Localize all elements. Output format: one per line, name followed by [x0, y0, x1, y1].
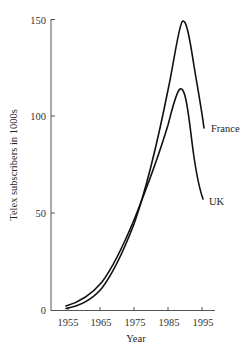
x-axis-title: Year	[126, 333, 146, 344]
y-axis-title: Telex subscribers in 1000s	[8, 109, 19, 221]
x-tick-label: 1965	[91, 317, 112, 328]
x-axis: 1955 1965 1975 1985 1995	[51, 307, 215, 328]
y-tick-label: 100	[30, 111, 46, 122]
x-tick-label: 1975	[125, 317, 146, 328]
series-label-uk: UK	[209, 196, 225, 207]
x-tick-label: 1995	[193, 317, 214, 328]
x-tick-label: 1955	[58, 317, 79, 328]
series-line-uk	[66, 89, 203, 306]
y-tick-label: 0	[41, 305, 46, 316]
y-axis: 150 100 50 0	[30, 15, 55, 316]
y-tick-label: 50	[36, 208, 47, 219]
line-chart: 150 100 50 0 1955 1965 1975 1985 1995 Ye…	[0, 0, 249, 354]
x-tick-label: 1985	[159, 317, 180, 328]
series-line-france	[66, 21, 204, 308]
y-tick-label: 150	[30, 15, 46, 26]
series-label-france: France	[211, 123, 240, 134]
